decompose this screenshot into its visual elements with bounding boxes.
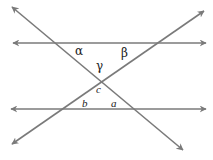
angle-diagram: α β γ c b a [0, 0, 213, 160]
angle-label-beta: β [121, 46, 128, 60]
angle-label-c: c [96, 83, 101, 95]
angle-label-a: a [111, 97, 117, 109]
descending-transversal-line [12, 7, 183, 150]
angle-label-b: b [82, 97, 88, 109]
angle-label-alpha: α [75, 44, 83, 58]
angle-label-gamma: γ [96, 59, 103, 73]
